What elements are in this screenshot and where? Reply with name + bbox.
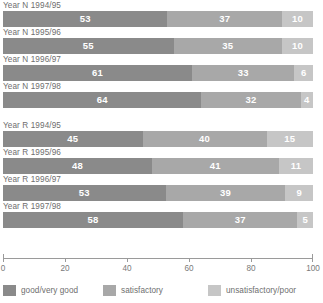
- x-axis-tick-label: 80: [246, 264, 255, 273]
- stacked-bar: 454015: [3, 131, 313, 147]
- bar-value-label: 45: [67, 134, 78, 144]
- plot-area: Year N 1994/95533710Year N 1995/96553510…: [0, 0, 323, 228]
- stacked-bar: 58375: [3, 212, 313, 228]
- stacked-bar-chart: Year N 1994/95533710Year N 1995/96553510…: [0, 0, 323, 303]
- bar-segment: 64: [3, 92, 201, 108]
- bar-value-label: 55: [83, 41, 94, 51]
- bar-value-label: 32: [246, 95, 257, 105]
- bar-segment: 61: [3, 65, 192, 81]
- stacked-bar: 553510: [3, 38, 313, 54]
- stacked-bar: 53399: [3, 185, 313, 201]
- x-axis: 020406080100: [0, 257, 323, 279]
- bar-group: Year N 1995/96553510: [0, 27, 323, 54]
- bar-segment: 53: [3, 185, 166, 201]
- bar-value-label: 53: [79, 188, 90, 198]
- category-label: Year R 1996/97: [0, 174, 323, 185]
- bar-value-label: 11: [291, 161, 301, 171]
- bar-value-label: 37: [219, 14, 230, 24]
- legend-color-swatch: [208, 285, 221, 296]
- bar-segment: 37: [183, 212, 298, 228]
- x-axis-tick-label: 0: [1, 264, 6, 273]
- stacked-bar: 484111: [3, 158, 313, 174]
- bar-value-label: 53: [80, 14, 91, 24]
- bar-segment: 58: [3, 212, 183, 228]
- x-axis-tick: [127, 258, 128, 262]
- bar-group: Year N 1996/9761336: [0, 54, 323, 81]
- bar-value-label: 61: [92, 68, 103, 78]
- legend-item[interactable]: satisfactory: [103, 285, 163, 296]
- legend-label: unsatisfactory/poor: [226, 286, 296, 295]
- legend-label: satisfactory: [121, 286, 163, 295]
- bar-value-label: 40: [199, 134, 210, 144]
- stacked-bar: 64324: [3, 92, 313, 108]
- stacked-bar: 61336: [3, 65, 313, 81]
- bar-value-label: 6: [301, 68, 306, 78]
- legend-color-swatch: [103, 285, 116, 296]
- bar-segment: 32: [201, 92, 300, 108]
- bar-group: Year N 1997/9864324: [0, 81, 323, 108]
- bar-value-label: 10: [292, 14, 303, 24]
- bar-segment: 10: [282, 11, 313, 27]
- bar-segment: 5: [297, 212, 313, 228]
- x-axis-tick: [251, 258, 252, 262]
- x-axis-tick: [312, 254, 313, 262]
- bar-segment: 41: [152, 158, 279, 174]
- bar-group: Year N 1994/95533710: [0, 0, 323, 27]
- x-axis-tick-label: 40: [122, 264, 131, 273]
- bar-value-label: 41: [210, 161, 221, 171]
- bar-group: Year R 1997/9858375: [0, 201, 323, 228]
- category-label: Year N 1995/96: [0, 27, 323, 38]
- category-label: Year R 1995/96: [0, 147, 323, 158]
- bar-segment: 39: [166, 185, 286, 201]
- bar-value-label: 37: [235, 215, 246, 225]
- bar-segment: 10: [282, 38, 313, 54]
- bar-segment: 15: [267, 131, 314, 147]
- x-axis-tick-label: 20: [60, 264, 69, 273]
- legend-item[interactable]: unsatisfactory/poor: [208, 285, 296, 296]
- bar-segment: 4: [301, 92, 313, 108]
- category-label: Year R 1994/95: [0, 120, 323, 131]
- bar-value-label: 35: [222, 41, 233, 51]
- bar-value-label: 4: [304, 95, 309, 105]
- bar-value-label: 9: [296, 188, 301, 198]
- bar-value-label: 5: [302, 215, 307, 225]
- bar-value-label: 48: [72, 161, 83, 171]
- bar-group: Year R 1996/9753399: [0, 174, 323, 201]
- x-axis-tick: [65, 258, 66, 262]
- bar-value-label: 64: [97, 95, 108, 105]
- legend-item[interactable]: good/very good: [3, 285, 78, 296]
- bar-group: Year R 1995/96484111: [0, 147, 323, 174]
- legend-label: good/very good: [21, 286, 78, 295]
- bar-segment: 35: [174, 38, 283, 54]
- bar-segment: 37: [167, 11, 282, 27]
- bar-segment: 53: [3, 11, 167, 27]
- bar-segment: 40: [143, 131, 267, 147]
- bar-segment: 6: [294, 65, 313, 81]
- x-axis-tick-label: 100: [306, 264, 320, 273]
- category-label: Year N 1994/95: [0, 0, 323, 11]
- bar-group: Year R 1994/95454015: [0, 120, 323, 147]
- category-label: Year N 1997/98: [0, 81, 323, 92]
- category-label: Year N 1996/97: [0, 54, 323, 65]
- bar-segment: 9: [285, 185, 313, 201]
- bar-segment: 33: [192, 65, 294, 81]
- x-axis-tick: [189, 258, 190, 262]
- bar-value-label: 10: [292, 41, 303, 51]
- stacked-bar: 533710: [3, 11, 313, 27]
- bar-segment: 48: [3, 158, 152, 174]
- bar-value-label: 58: [87, 215, 98, 225]
- x-axis-tick: [3, 254, 4, 262]
- bar-value-label: 39: [220, 188, 231, 198]
- x-axis-tick-label: 60: [184, 264, 193, 273]
- bar-segment: 45: [3, 131, 143, 147]
- category-label: Year R 1997/98: [0, 201, 323, 212]
- legend-color-swatch: [3, 285, 16, 296]
- x-axis-line: [3, 258, 313, 259]
- bar-segment: 11: [279, 158, 313, 174]
- bar-value-label: 33: [238, 68, 249, 78]
- bar-segment: 55: [3, 38, 174, 54]
- bar-value-label: 15: [284, 134, 295, 144]
